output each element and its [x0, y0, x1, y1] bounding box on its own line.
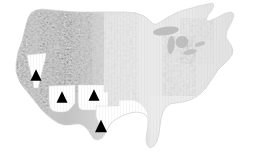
- map-canvas[interactable]: [0, 0, 256, 164]
- us-relief-map-figure: Shaded relief map of the contiguous Unit…: [0, 0, 256, 164]
